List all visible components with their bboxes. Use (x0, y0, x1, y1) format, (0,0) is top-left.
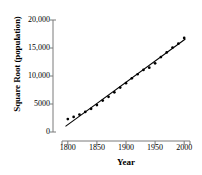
data-point (113, 91, 116, 94)
data-point (165, 51, 168, 54)
data-point (72, 116, 75, 119)
data-point (107, 95, 110, 98)
chart-figure: Square Root (population) 0500010,00015,0… (0, 0, 202, 175)
data-point (177, 42, 180, 45)
x-tick-labels: 18001850190019502000 (0, 144, 202, 158)
data-point (90, 108, 93, 111)
data-point (154, 62, 157, 65)
y-axis-spine (53, 20, 56, 132)
data-point (148, 66, 151, 69)
x-tick-label: 2000 (164, 144, 202, 152)
data-point (160, 56, 163, 59)
data-point (125, 82, 128, 85)
data-point (142, 69, 145, 72)
data-point (136, 73, 139, 76)
data-point (101, 99, 104, 102)
data-point (171, 46, 174, 49)
x-axis-label: Year (62, 157, 190, 167)
data-point (130, 77, 133, 80)
data-point (96, 104, 99, 107)
data-point (183, 37, 186, 40)
data-point (78, 113, 81, 116)
data-point (84, 111, 87, 114)
data-point (119, 86, 122, 89)
data-point (66, 118, 69, 121)
